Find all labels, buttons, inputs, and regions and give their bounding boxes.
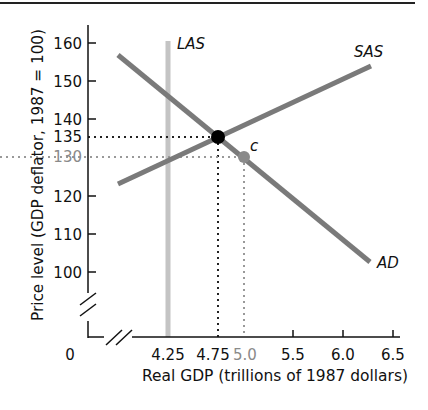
x-tick-50: 5.0 — [233, 346, 257, 364]
y-tick-140: 140 — [53, 111, 82, 129]
ad-label: AD — [376, 254, 399, 272]
y-tick-110: 110 — [53, 226, 82, 244]
y-tick-135: 135 — [53, 128, 82, 146]
chart: 160 150 140 135 130 120 110 100 0 4.25 4… — [0, 0, 428, 410]
point-c — [238, 151, 250, 163]
x-ticks — [293, 330, 393, 337]
sas-label: SAS — [354, 43, 384, 61]
point-c-label: c — [250, 137, 259, 155]
x-tick-origin: 0 — [65, 346, 75, 364]
y-tick-100: 100 — [53, 264, 82, 282]
y-tick-130: 130 — [53, 148, 82, 166]
x-tick-475: 4.75 — [196, 346, 229, 364]
x-tick-55: 5.5 — [281, 346, 305, 364]
y-ticks — [88, 43, 96, 272]
x-tick-60: 6.0 — [331, 346, 355, 364]
x-tick-65: 6.5 — [381, 346, 405, 364]
x-axis-title: Real GDP (trillions of 1987 dollars) — [142, 367, 408, 385]
y-tick-160: 160 — [53, 35, 82, 53]
x-axis-break — [104, 330, 132, 346]
equilibrium-point — [211, 130, 225, 144]
y-axis-title: Price level (GDP deflator, 1987 = 100) — [29, 29, 47, 321]
x-tick-425: 4.25 — [151, 346, 184, 364]
las-label: LAS — [177, 35, 206, 53]
y-tick-150: 150 — [53, 73, 82, 91]
y-tick-120: 120 — [53, 188, 82, 206]
y-axis-break — [80, 293, 96, 321]
